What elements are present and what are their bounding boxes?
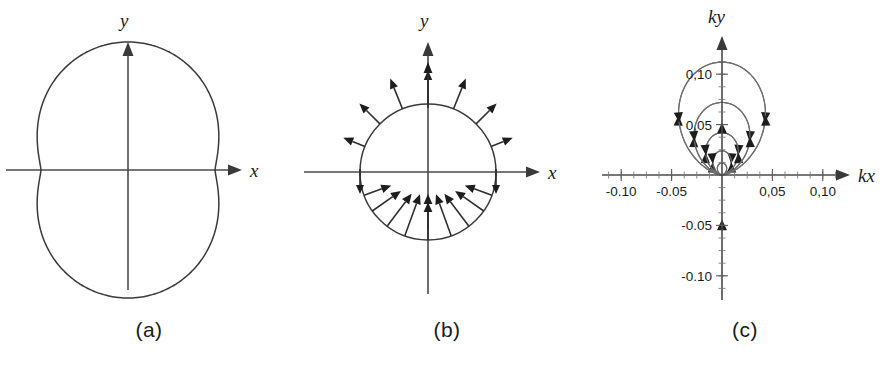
panel-c-y-label: ky xyxy=(708,6,725,27)
panel-c-ytick-label: 0,05 xyxy=(686,118,712,133)
panel-c-ytick-label: -0.05 xyxy=(681,218,712,233)
figure-container: x y (a) x y (b) xyxy=(0,0,894,370)
panel-c-plot: -0.10-0.050,050,10-0.10-0.050,050,10 kx … xyxy=(596,0,894,318)
panel-c-ytick-label: 0,10 xyxy=(686,67,712,82)
panel-c-xtick-label: 0,05 xyxy=(759,184,785,199)
panel-b: x y (b) xyxy=(298,0,596,370)
panel-c-y-axis xyxy=(717,36,728,300)
panel-c-caption: (c) xyxy=(596,318,894,342)
panel-a: x y (a) xyxy=(0,0,298,370)
panel-c-xtick-label: -0.10 xyxy=(606,184,637,199)
panel-c-x-label: kx xyxy=(858,165,875,186)
panel-b-y-label: y xyxy=(418,10,429,31)
panel-a-y-axis xyxy=(123,42,134,290)
panel-c: -0.10-0.050,050,10-0.10-0.050,050,10 kx … xyxy=(596,0,894,370)
panel-c-ytick-label: -0.10 xyxy=(681,269,712,284)
panel-b-x-label: x xyxy=(547,162,557,183)
panel-b-caption: (b) xyxy=(298,318,596,342)
panel-a-plot: x y xyxy=(0,0,298,318)
panel-c-xtick-label: 0,10 xyxy=(810,184,836,199)
panel-a-caption: (a) xyxy=(0,318,298,342)
panel-c-xtick-label: -0.05 xyxy=(656,184,687,199)
panel-b-x-axis xyxy=(304,167,540,178)
panel-b-plot: x y xyxy=(298,0,596,318)
panel-a-y-label: y xyxy=(118,10,129,31)
panel-a-x-label: x xyxy=(249,160,259,181)
